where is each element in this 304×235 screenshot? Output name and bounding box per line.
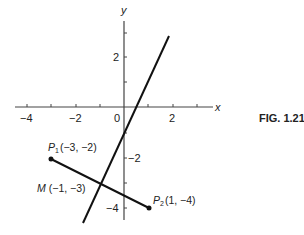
svg-text:P2(1, −4): P2(1, −4) [153,194,196,207]
x-tick-label: 2 [169,112,175,124]
label-p1: P1(−3, −2) [48,141,97,154]
point-p1 [49,157,54,162]
y-axis [124,21,127,220]
figure-caption: FIG. 1.21 [259,112,304,124]
x-axis [15,104,213,107]
point-p2 [147,206,152,211]
x-tick-label: −2 [69,112,82,124]
label-p2: P2(1, −4) [153,194,196,207]
y-tick-label: −4 [106,202,119,214]
x-axis-label: x [214,101,221,113]
y-axis-label: y [120,4,128,16]
x-tick-label: −4 [20,112,33,124]
label-m: M(−1, −3) [37,182,86,194]
p2-name: P [153,194,160,206]
p1-sub: 1 [55,147,59,154]
x-tick-label: 0 [114,112,120,124]
coordinate-diagram: −4 −2 0 2 2 −2 −4 y x P1(−3, −2) M(−1, −… [0,0,304,235]
p1-coords: (−3, −2) [60,141,97,153]
p2-sub: 2 [160,200,164,207]
svg-text:P1(−3, −2): P1(−3, −2) [48,141,97,154]
y-tick-label: −2 [128,152,141,164]
m-coords: (−1, −3) [49,182,86,194]
p2-coords: (1, −4) [165,194,196,206]
svg-text:M(−1, −3): M(−1, −3) [37,182,86,194]
p1-name: P [48,141,55,153]
y-tick-label: 2 [113,51,119,63]
m-name: M [37,182,46,194]
